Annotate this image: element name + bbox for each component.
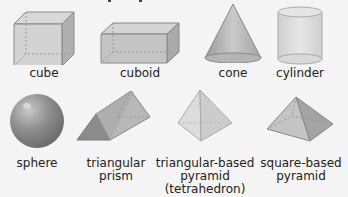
text-fragment-mark [108, 0, 111, 2]
cuboid-label: cuboid [100, 67, 180, 80]
cone-shape-icon [203, 3, 263, 63]
cylinder-shape-icon [277, 6, 323, 66]
square-based-pyramid-label-line-2: pyramid [255, 170, 347, 183]
tetrahedron-label-line-3: (tetrahedron) [155, 183, 255, 196]
cuboid-shape-icon [99, 22, 181, 64]
cylinder-label: cylinder [270, 67, 330, 80]
sphere-label: sphere [7, 157, 67, 170]
tetrahedron-shape-icon [177, 89, 233, 142]
cube-label: cube [12, 67, 76, 80]
triangular-prism-label-line-2: prism [84, 170, 148, 183]
triangular-prism-shape-icon [76, 90, 152, 142]
sphere-shape-icon [9, 93, 65, 149]
square-based-pyramid-shape-icon [266, 96, 334, 144]
cone-label: cone [203, 67, 263, 80]
text-fragment-mark [139, 0, 142, 2]
cube-shape-icon [12, 10, 76, 65]
